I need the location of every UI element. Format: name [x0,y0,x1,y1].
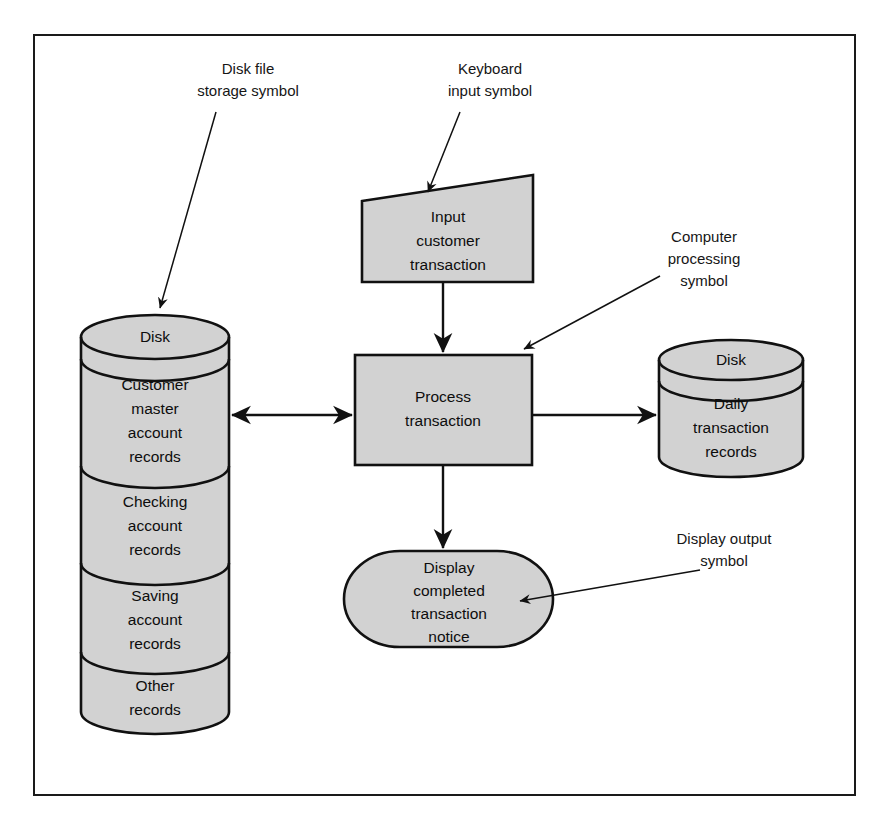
leader-keyboard-input [428,112,460,192]
process-line1: transaction [405,412,481,429]
annotation-computer-line0: Computer [671,228,737,245]
disk-right-line1: transaction [693,419,769,436]
input-line2: transaction [410,256,486,273]
annotation-computer-line1: processing [668,250,741,267]
annotation-disk-file-line1: storage symbol [197,82,299,99]
disk-right-line0: Daily [714,395,749,412]
disk-left-seg2-line2: records [129,635,181,652]
display-line2: transaction [411,605,487,622]
display-line0: Display [424,559,475,576]
disk-left-seg0-line3: records [129,448,181,465]
disk-left-seg2-line0: Saving [131,587,178,604]
disk-left-seg0-line2: account [128,424,183,441]
display-line3: notice [428,628,469,645]
disk-left-seg0-line0: Customer [121,376,188,393]
annotation-display-output-line1: symbol [700,552,748,569]
annotation-computer-line2: symbol [680,272,728,289]
leader-disk-file-storage [160,112,216,308]
annotation-keyboard-line1: input symbol [448,82,532,99]
disk-left-header: Disk [140,328,170,345]
diagram-page: Disk Customer master account records Che… [0,0,886,828]
disk-left-seg3-line0: Other [136,677,175,694]
process-line0: Process [415,388,471,405]
annotation-disk-file-line0: Disk file [222,60,275,77]
disk-left-seg1-line1: account [128,517,183,534]
disk-left-seg2-line1: account [128,611,183,628]
disk-right-header: Disk [716,351,746,368]
display-line1: completed [413,582,485,599]
leader-computer-processing [524,276,660,349]
input-line0: Input [431,208,466,225]
disk-left-seg0-line1: master [131,400,178,417]
process-transaction-shape [355,355,532,465]
diagram-canvas: Disk Customer master account records Che… [0,0,886,828]
disk-right-line2: records [705,443,757,460]
disk-left-seg3-line1: records [129,701,181,718]
annotation-keyboard-line0: Keyboard [458,60,522,77]
disk-left-seg1-line0: Checking [123,493,188,510]
annotation-display-output-line0: Display output [676,530,772,547]
input-line1: customer [416,232,480,249]
disk-left-seg1-line2: records [129,541,181,558]
